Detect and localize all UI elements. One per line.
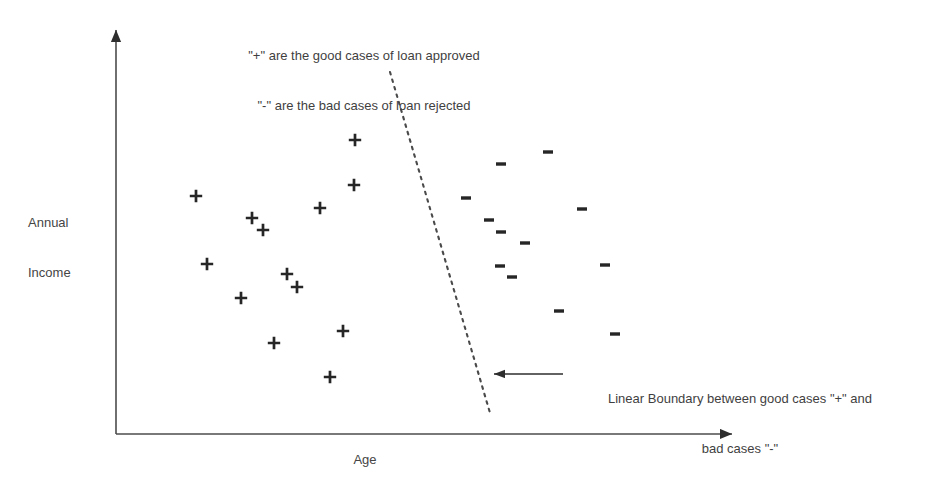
- data-markers-layer: [190, 134, 620, 383]
- minus-marker: [554, 309, 564, 312]
- axis-group: [116, 30, 732, 434]
- minus-marker: [496, 230, 506, 233]
- minus-marker: [484, 218, 494, 221]
- plus-marker: [348, 179, 360, 191]
- minus-marker: [577, 207, 587, 210]
- positive-marker-group: [190, 134, 361, 383]
- plus-marker: [190, 190, 202, 202]
- minus-marker: [543, 150, 553, 153]
- minus-marker: [600, 263, 610, 266]
- plus-marker: [246, 212, 258, 224]
- scatter-figure: "+" are the good cases of loan approved …: [0, 0, 928, 497]
- minus-marker: [495, 264, 505, 267]
- minus-marker: [610, 332, 620, 335]
- plus-marker: [349, 134, 361, 146]
- plus-marker: [314, 202, 326, 214]
- plus-marker: [291, 281, 303, 293]
- plus-marker: [337, 325, 349, 337]
- plus-marker: [257, 224, 269, 236]
- plus-marker: [201, 258, 213, 270]
- minus-marker: [507, 275, 517, 278]
- plus-marker: [268, 337, 280, 349]
- minus-marker: [520, 241, 530, 244]
- plus-marker: [235, 292, 247, 304]
- negative-marker-group: [461, 150, 620, 335]
- plus-marker: [324, 371, 336, 383]
- plus-marker: [281, 268, 293, 280]
- minus-marker: [461, 196, 471, 199]
- decision-boundary-line: [390, 72, 490, 413]
- plot-canvas: [0, 0, 928, 497]
- minus-marker: [496, 162, 506, 165]
